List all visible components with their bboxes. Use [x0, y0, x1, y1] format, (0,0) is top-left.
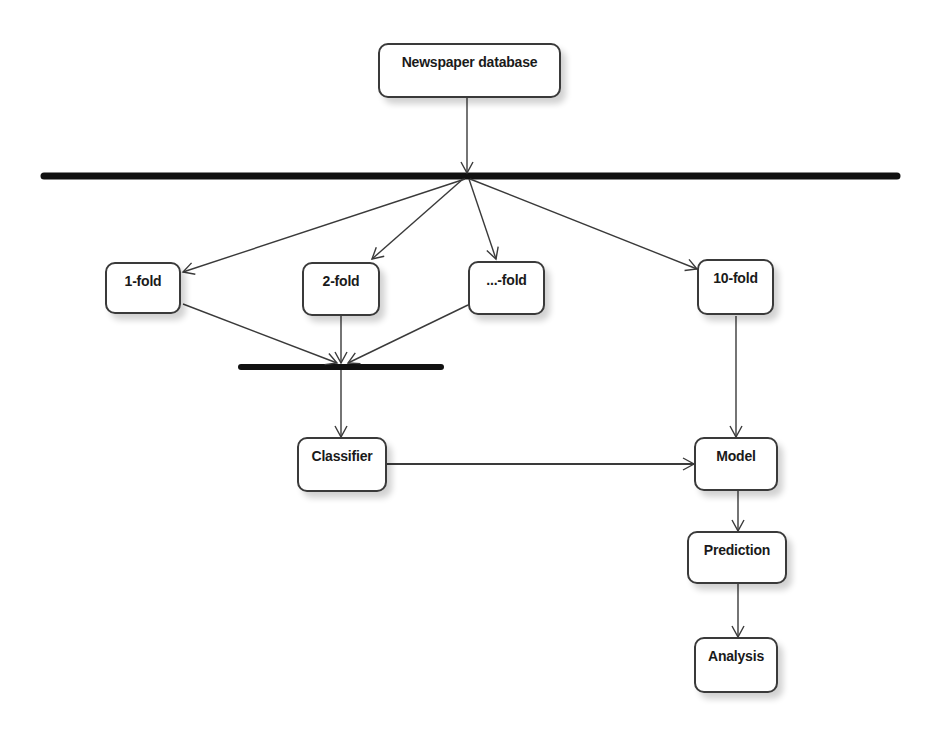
node-label: Newspaper database — [402, 54, 538, 70]
node-label: 2-fold — [323, 273, 360, 289]
edge-fork-fold1 — [183, 179, 465, 272]
node-label: Analysis — [708, 648, 764, 664]
node-model: Model — [694, 437, 778, 491]
node-analysis: Analysis — [694, 637, 778, 693]
node-label: 1-fold — [125, 273, 162, 289]
edge-fork-fold2 — [372, 179, 463, 259]
node-prediction: Prediction — [687, 531, 787, 584]
node-label: 10-fold — [713, 270, 758, 286]
node-n-fold: ...-fold — [468, 261, 545, 315]
node-newspaper-database: Newspaper database — [378, 43, 561, 98]
edge-fork-fold10 — [470, 179, 697, 269]
node-10-fold: 10-fold — [697, 259, 774, 315]
node-classifier: Classifier — [297, 437, 387, 492]
node-label: ...-fold — [486, 272, 526, 288]
node-1-fold: 1-fold — [105, 262, 181, 314]
diagram-edges — [0, 0, 933, 732]
edge-fork-foldn — [469, 179, 496, 259]
node-label: Model — [716, 448, 755, 464]
node-label: Prediction — [704, 542, 770, 558]
node-2-fold: 2-fold — [302, 262, 380, 316]
node-label: Classifier — [311, 448, 372, 464]
